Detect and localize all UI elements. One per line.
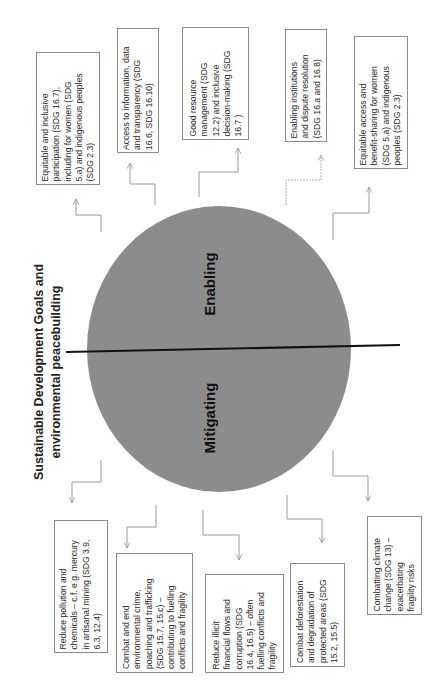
connector-mitigating-4 bbox=[287, 495, 322, 543]
connector-enabling-4 bbox=[286, 155, 321, 205]
mitigating-label: Mitigating bbox=[201, 383, 218, 454]
title-line-1: Sustainable Development Goals and bbox=[31, 264, 48, 480]
mitigating-box-text: Reduce pollution and chemicals – c.f. e.… bbox=[58, 524, 103, 649]
mitigating-box-illicit-flows: Reduce illicit financial flows and corru… bbox=[205, 574, 284, 673]
mitigating-box-climate-change: Combatting climate change (SDG 13) – exa… bbox=[367, 516, 422, 615]
enabling-label: Enabling bbox=[201, 252, 218, 315]
mitigating-box-text: Reduce illicit financial flows and corru… bbox=[211, 578, 279, 669]
mitigating-box-text: Combat and end environmental crime, poac… bbox=[121, 557, 189, 669]
mitigating-box-text: Combat deforestation and degradation of … bbox=[295, 567, 340, 663]
mitigating-box-environmental-crime: Combat and end environmental crime, poac… bbox=[116, 553, 193, 673]
enabling-box-institutions: Enabling institutions and dispute resolu… bbox=[285, 29, 327, 142]
enabling-box-text: Access to information, data and transpar… bbox=[121, 32, 155, 150]
mitigating-box-pollution: Reduce pollution and chemicals – c.f. e.… bbox=[54, 520, 108, 653]
mitigating-box-text: Combatting climate change (SDG 13) – exa… bbox=[372, 520, 417, 611]
enabling-box-participation: Equitable and inclusive participation (S… bbox=[36, 52, 100, 185]
connector-mitigating-1 bbox=[72, 460, 101, 503]
connector-enabling-3 bbox=[199, 148, 238, 197]
enabling-box-text: Enabling institutions and dispute resolu… bbox=[289, 33, 323, 138]
enabling-box-resource-management: Good resource management (SDG 12.2) and … bbox=[182, 27, 249, 140]
enabling-box-text: Good resource management (SDG 12.2) and … bbox=[187, 31, 243, 136]
connector-enabling-2 bbox=[130, 163, 155, 205]
mitigating-box-deforestation: Combat deforestation and degradation of … bbox=[290, 563, 345, 667]
connector-mitigating-5 bbox=[333, 450, 368, 501]
diagram-title: Sustainable Development Goals and enviro… bbox=[31, 264, 65, 480]
enabling-box-text: Equitable and inclusive participation (S… bbox=[40, 56, 96, 181]
connector-mitigating-2 bbox=[127, 505, 156, 548]
connector-enabling-1 bbox=[76, 199, 101, 232]
sdg-peacebuilding-diagram: Sustainable Development Goals and enviro… bbox=[0, 0, 438, 694]
connector-enabling-5 bbox=[333, 187, 369, 240]
title-line-2: environmental peacebuilding bbox=[48, 264, 65, 480]
enabling-box-benefit-sharing: Equitable access and benefit-sharing for… bbox=[354, 36, 408, 169]
enabling-box-text: Equitable access and benefit-sharing for… bbox=[358, 40, 403, 165]
connector-mitigating-3 bbox=[203, 510, 239, 560]
enabling-box-information: Access to information, data and transpar… bbox=[117, 28, 159, 153]
